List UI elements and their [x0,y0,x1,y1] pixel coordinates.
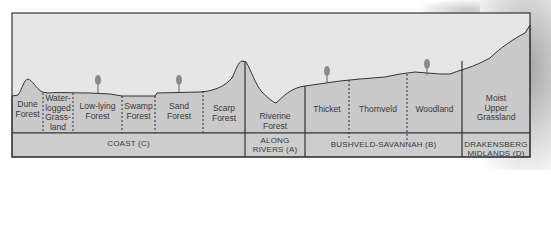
zone-label-line: Forest [203,114,245,124]
zone-label-line: Forest [12,110,43,120]
region-label-line: DRAKENSBERG [462,140,530,149]
region-label-line: COAST (C) [12,139,245,148]
region-label-drakensberg-midlands: DRAKENSBERG MIDLANDS (D) [462,140,530,158]
zone-label-swamp-forest: Swamp Forest [122,102,155,121]
zone-label-low-lying-forest: Low-lying Forest [73,102,122,121]
region-label-along-rivers: ALONG RIVERS (A) [245,136,305,154]
region-label-coast: COAST (C) [12,139,245,148]
zone-label-line: Forest [73,112,122,122]
region-label-bushveld-savannah: BUSHVELD-SAVANNAH (B) [305,140,462,149]
zone-label-line: Thornveld [349,105,407,115]
zone-label-thicket: Thicket [305,105,349,115]
zone-label-thornveld: Thornveld [349,105,407,115]
zone-label-riverine-forest: Riverine Forest [245,112,305,131]
zone-label-line: Grassland [462,113,530,123]
zone-label-waterlogged-grassland: Water- logged Grass- land [43,94,73,132]
zone-label-line: Woodland [407,105,462,115]
zone-label-sand-forest: Sand Forest [155,102,203,121]
zone-label-line: Thicket [305,105,349,115]
region-label-line: MIDLANDS (D) [462,149,530,158]
zone-label-line: Forest [122,112,155,122]
region-label-line: RIVERS (A) [245,145,305,154]
zone-label-moist-upper-grassland: Moist Upper Grassland [462,94,530,123]
zone-label-line: land [43,123,73,133]
region-label-line: ALONG [245,136,305,145]
zone-label-dune-forest: Dune Forest [12,100,43,119]
zone-label-line: Forest [245,122,305,132]
zone-label-line: Forest [155,112,203,122]
region-label-line: BUSHVELD-SAVANNAH (B) [305,140,462,149]
zone-label-woodland: Woodland [407,105,462,115]
zone-label-scarp-forest: Scarp Forest [203,104,245,123]
